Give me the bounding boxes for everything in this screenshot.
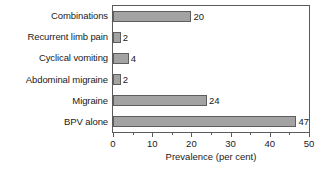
category-label-row: Migraine — [0, 90, 111, 111]
x-tick-major — [113, 133, 114, 137]
category-label-row: BPV alone — [0, 112, 111, 133]
category-label-row: Combinations — [0, 5, 111, 26]
x-tick-minor — [133, 133, 134, 135]
bar-value-label: 20 — [193, 12, 204, 22]
bar-row: 20 — [113, 6, 309, 27]
category-label: Abdominal migraine — [26, 75, 108, 85]
x-axis-tick-labels: 01020304050 — [113, 138, 309, 150]
bar — [113, 11, 191, 22]
bar — [113, 32, 121, 43]
bar-value-label: 47 — [298, 117, 309, 127]
bar-row: 2 — [113, 69, 309, 90]
x-tick-minor — [289, 133, 290, 135]
bar-value-label: 2 — [123, 75, 128, 85]
category-label-row: Abdominal migraine — [0, 69, 111, 90]
category-label: Combinations — [51, 11, 108, 21]
category-label: BPV alone — [64, 117, 108, 127]
bars-area: 20 2 4 2 24 47 — [113, 6, 309, 132]
bar-row: 47 — [113, 111, 309, 132]
bar-value-label: 4 — [131, 54, 136, 64]
x-tick-major — [270, 133, 271, 137]
x-tick-minor — [250, 133, 251, 135]
bar — [113, 95, 207, 106]
x-tick-major — [191, 133, 192, 137]
category-label: Cyclical vomiting — [39, 53, 108, 63]
bar-row: 4 — [113, 48, 309, 69]
x-tick-label: 0 — [110, 138, 115, 149]
x-tick-minor — [172, 133, 173, 135]
category-label-row: Recurrent limb pain — [0, 26, 111, 47]
x-tick-major — [309, 133, 310, 137]
bar-chart: Combinations Recurrent limb pain Cyclica… — [0, 0, 323, 170]
bar — [113, 53, 129, 64]
x-tick-minor — [211, 133, 212, 135]
category-label-row: Cyclical vomiting — [0, 48, 111, 69]
bar-value-label: 2 — [123, 33, 128, 43]
x-tick-label: 20 — [186, 138, 197, 149]
category-label: Recurrent limb pain — [28, 32, 108, 42]
x-tick-label: 10 — [147, 138, 158, 149]
bar — [113, 116, 296, 127]
x-tick-label: 40 — [265, 138, 276, 149]
bar-row: 24 — [113, 90, 309, 111]
category-axis-labels: Combinations Recurrent limb pain Cyclica… — [0, 5, 111, 133]
category-label: Migraine — [72, 96, 108, 106]
x-axis-title: Prevalence (per cent) — [112, 151, 310, 162]
x-tick-label: 30 — [225, 138, 236, 149]
bar-value-label: 24 — [209, 96, 220, 106]
bar — [113, 74, 121, 85]
bar-row: 2 — [113, 27, 309, 48]
x-tick-major — [231, 133, 232, 137]
x-tick-major — [152, 133, 153, 137]
x-tick-label: 50 — [304, 138, 315, 149]
